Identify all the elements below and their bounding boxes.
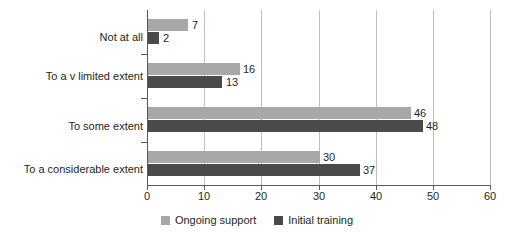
bar-initial-training <box>148 32 159 44</box>
y-axis-tick <box>141 142 147 143</box>
x-axis-tick-label: 60 <box>470 190 510 202</box>
bar-value-label: 46 <box>414 107 426 119</box>
legend-swatch-icon <box>274 216 283 225</box>
bar-value-label: 13 <box>226 76 238 88</box>
x-axis-tick-label: 30 <box>299 190 339 202</box>
y-axis-tick <box>141 54 147 55</box>
y-axis-tick <box>141 98 147 99</box>
bar-ongoing-support <box>148 63 240 75</box>
legend-swatch-icon <box>161 216 170 225</box>
chart-legend: Ongoing support Initial training <box>0 214 514 226</box>
bar-value-label: 48 <box>426 120 438 132</box>
bar-initial-training <box>148 164 360 176</box>
x-axis-tick-label: 40 <box>356 190 396 202</box>
legend-label: Ongoing support <box>175 214 256 226</box>
category-label: Not at all <box>0 31 143 43</box>
legend-item-initial-training[interactable]: Initial training <box>274 214 353 226</box>
bar-value-label: 37 <box>363 164 375 176</box>
legend-item-ongoing-support[interactable]: Ongoing support <box>161 214 256 226</box>
gridline <box>433 10 434 185</box>
bar-ongoing-support <box>148 19 188 31</box>
gridline <box>490 10 491 185</box>
category-label: To a v limited extent <box>0 70 143 82</box>
bar-initial-training <box>148 120 423 132</box>
bar-value-label: 30 <box>323 151 335 163</box>
x-axis-tick-label: 20 <box>241 190 281 202</box>
legend-label: Initial training <box>288 214 353 226</box>
category-label: To a considerable extent <box>0 163 143 175</box>
bar-value-label: 2 <box>163 32 169 44</box>
bar-ongoing-support <box>148 151 320 163</box>
bar-value-label: 7 <box>192 19 198 31</box>
gridline <box>376 10 377 185</box>
bar-value-label: 16 <box>243 63 255 75</box>
bar-ongoing-support <box>148 107 411 119</box>
x-axis-tick-label: 0 <box>127 190 167 202</box>
bar-chart: 0 10 20 30 40 50 60 Not at all To a v li… <box>0 0 514 240</box>
bar-initial-training <box>148 76 222 88</box>
category-label: To some extent <box>0 120 143 132</box>
x-axis-tick-label: 10 <box>184 190 224 202</box>
x-axis-tick-label: 50 <box>413 190 453 202</box>
